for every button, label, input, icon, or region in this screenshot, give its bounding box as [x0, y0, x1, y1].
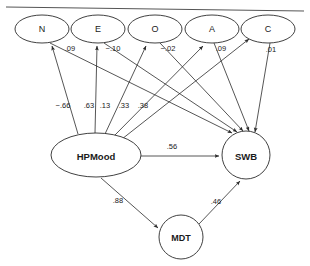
coefficient-hpmood-to-o: .13 — [100, 101, 110, 110]
coefficient-hpmood-to-a: .33 — [119, 101, 129, 110]
edge-hpmood-to-e — [95, 46, 97, 133]
path-diagram-figure: N E O A C HPMood SWB — [0, 0, 310, 266]
trait-node-e[interactable]: E — [71, 15, 125, 43]
coefficient-a-to-swb: .09 — [216, 44, 226, 53]
edge-hpmood-to-o — [105, 46, 146, 134]
edge-group-hpmood-to-traits — [52, 39, 249, 139]
edge-a-to-swb — [214, 43, 249, 131]
node-mdt[interactable]: MDT — [159, 215, 203, 259]
edge-hpmood-to-a — [114, 46, 203, 136]
trait-label-o: O — [151, 24, 158, 34]
edge-e-to-swb — [104, 43, 237, 132]
coefficient-c-to-swb: .01 — [266, 45, 276, 54]
coefficient-e-to-swb: −.10 — [106, 44, 121, 53]
trait-node-a[interactable]: A — [185, 15, 239, 43]
swb-label: SWB — [235, 151, 257, 162]
hpmood-label: HPMood — [77, 151, 116, 162]
trait-node-c[interactable]: C — [241, 15, 295, 43]
trait-node-n[interactable]: N — [15, 15, 69, 43]
coefficient-o-to-swb: −.02 — [161, 44, 176, 53]
edge-hpmood-to-c — [122, 39, 249, 139]
trait-label-c: C — [265, 24, 272, 34]
coefficient-label-group: .09 −.10 −.02 .09 .01 −.66 .63 .13 .33 .… — [56, 44, 277, 206]
trait-node-o[interactable]: O — [128, 15, 182, 43]
edge-c-to-swb — [255, 43, 270, 132]
edge-hpmood-to-n — [52, 46, 78, 134]
trait-label-a: A — [209, 24, 215, 34]
coefficient-n-to-swb: .09 — [65, 44, 75, 53]
coefficient-hpmood-to-swb: .56 — [167, 142, 177, 151]
node-swb[interactable]: SWB — [222, 131, 270, 179]
coefficient-hpmood-to-n: −.66 — [56, 101, 71, 110]
edge-group-traits-to-swb — [50, 43, 270, 133]
edge-hpmood-to-mdt — [101, 178, 158, 228]
coefficient-hpmood-to-mdt: .88 — [113, 196, 123, 205]
top-rule — [6, 7, 304, 11]
mdt-label: MDT — [171, 233, 191, 243]
trait-label-n: N — [39, 24, 46, 34]
coefficient-hpmood-to-c: .38 — [138, 101, 148, 110]
trait-label-e: E — [95, 24, 101, 34]
node-hpmood[interactable]: HPMood — [51, 133, 141, 177]
coefficient-mdt-to-swb: .46 — [211, 197, 221, 206]
coefficient-hpmood-to-e: .63 — [84, 101, 94, 110]
